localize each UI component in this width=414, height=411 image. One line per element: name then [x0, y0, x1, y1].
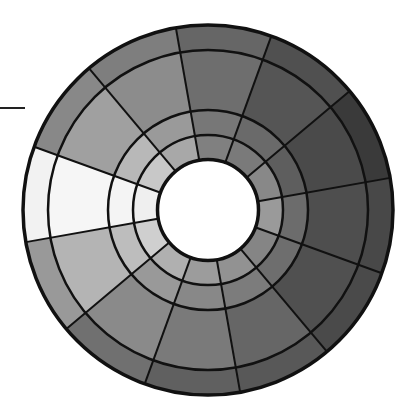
polar-bullseye-wheel [0, 0, 414, 411]
center-hole [158, 160, 258, 260]
diagram-canvas: grayscale [0, 0, 414, 411]
